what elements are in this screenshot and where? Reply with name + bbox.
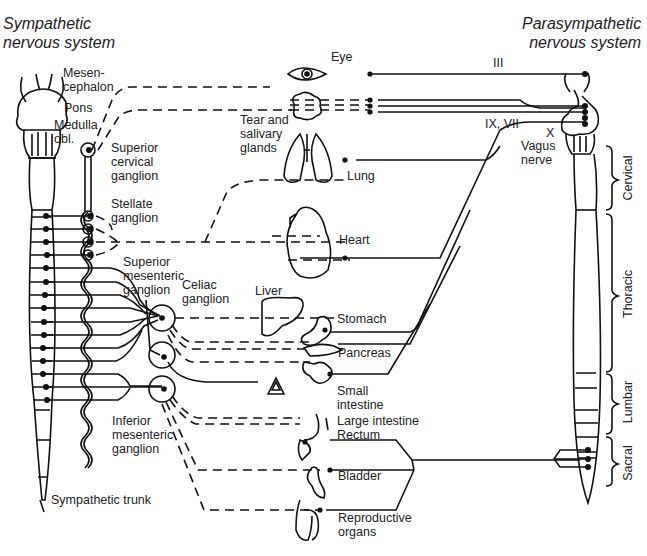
sympathetic-chain [81,143,95,468]
tear-salivary-label: Tear and salivary glands [240,113,289,155]
sympathetic-preganglionic-fibers [46,216,162,400]
colon-triangle [268,378,284,394]
cranial-nerve-ix-vii-label: IX, VII [485,117,519,131]
cord-tip [40,500,44,512]
liver-shape [262,298,303,336]
eye-label: Eye [331,50,353,64]
superior-mesenteric-ganglion-label: Superior mesenteric ganglion [123,255,184,297]
pancreas-shape [304,344,342,356]
bladder-shape [307,467,324,498]
lung-label: Lung [347,169,375,183]
thoracic-label: Thoracic [621,266,635,322]
reproductive-shape [296,500,318,540]
sympathetic-title: Sympathetic nervous system [3,14,115,52]
sacral-label: Sacral [621,438,635,488]
left-spinal-cord [29,158,55,500]
bladder-label: Bladder [338,469,381,483]
inferior-mesenteric-ganglion-label: Inferior mesenteric ganglion [112,414,173,456]
cranial-nerve-iii-label: III [493,56,503,70]
cervical-label: Cervical [621,150,635,206]
celiac-ganglion-label: Celiac ganglion [182,278,229,306]
stellate-ganglion-label: Stellate ganglion [111,197,158,225]
large-intestine-label: Large intestine Rectum [337,414,419,442]
cranial-nerve-x-label: X [546,126,554,140]
gland-shape [293,92,321,119]
lumbar-label: Lumbar [621,377,635,427]
small-intestine-shape [303,362,332,383]
superior-cervical-ganglion-label: Superior cervical ganglion [111,141,158,183]
heart-label: Heart [339,233,370,247]
parasympathetic-title: Parasympathetic nervous system [522,14,641,52]
small-intestine-label: Small intestine [337,384,384,412]
liver-label: Liver [255,284,282,298]
spinal-region-braces [606,146,618,486]
stomach-label: Stomach [337,312,386,326]
prevertebral-dots [159,315,167,392]
medulla-label: Medulla obl. [54,118,98,146]
pancreas-label: Pancreas [338,346,391,360]
sympathetic-trunk-label: Sympathetic trunk [51,493,151,507]
vagus-nerve-label: Vagus nerve [521,139,556,167]
small-intestine-sympathetic [168,362,258,382]
mesencephalon-label: Mesen- cephalon [63,66,114,94]
pons-label: Pons [64,101,93,115]
reproductive-label: Reproductive organs [338,511,412,539]
lung-shape [284,134,332,182]
right-brainstem [562,73,599,154]
large-intestine-shape [304,414,328,440]
